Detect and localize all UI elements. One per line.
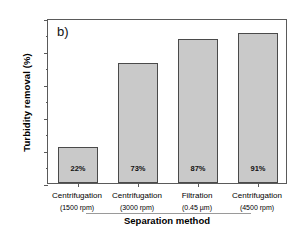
bar: 91% [238,33,278,183]
x-category-line1: Filtration [182,191,213,200]
bar-value-label: 91% [239,164,277,173]
x-category-label: Filtration(0.45 µm) [167,190,227,213]
x-category-label: Centrifugation(4500 rpm) [227,190,287,213]
bar: 87% [178,39,218,183]
bar-slot: 22% [48,20,108,183]
x-category-label: Centrifugation(1500 rpm) [47,190,107,213]
x-category-line2: (4500 rpm) [227,202,287,213]
plot-area: b) 02040608010022%73%87%91% [47,19,287,184]
figure-panel-b: Turbidity removal (%) b) 02040608010022%… [0,0,302,236]
x-category-line2: (3000 rpm) [107,202,167,213]
y-tick-0 [44,185,48,186]
x-category-line1: Centrifugation [52,191,102,200]
x-category-line2: (1500 rpm) [47,202,107,213]
x-axis-title: Separation method [47,215,287,226]
bar-slot: 87% [168,20,228,183]
bar-slot: 73% [108,20,168,183]
x-category-line1: Centrifugation [232,191,282,200]
bar: 22% [58,147,98,183]
bar-value-label: 22% [59,164,97,173]
bar-slot: 91% [228,20,288,183]
bar: 73% [118,63,158,183]
bar-value-label: 87% [179,164,217,173]
y-axis-title: Turbidity removal (%) [21,28,32,178]
x-tick [258,183,259,187]
bar-value-label: 73% [119,164,157,173]
x-category-label: Centrifugation(3000 rpm) [107,190,167,213]
x-tick [78,183,79,187]
x-category-line2: (0.45 µm) [167,202,227,213]
x-category-line1: Centrifugation [112,191,162,200]
x-tick [198,183,199,187]
x-tick [138,183,139,187]
x-axis-title-rule [86,213,251,214]
